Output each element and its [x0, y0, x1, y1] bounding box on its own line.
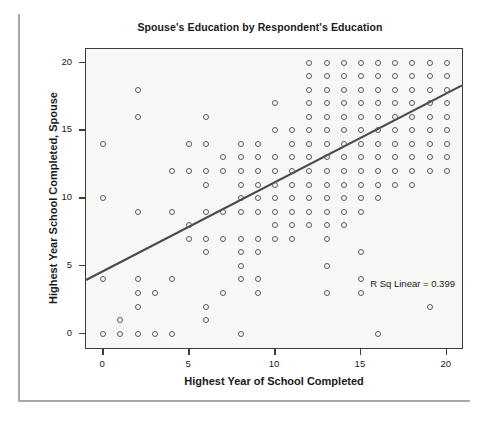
- scatter-point: [358, 87, 364, 93]
- scatter-point: [203, 168, 209, 174]
- scatter-point: [392, 127, 398, 133]
- scatter-point: [324, 114, 330, 120]
- scatter-point: [135, 87, 141, 93]
- scatter-point: [203, 304, 209, 310]
- scatter-point: [289, 209, 295, 215]
- scatter-point: [169, 168, 175, 174]
- scatter-point: [409, 141, 415, 147]
- scatter-point: [306, 154, 312, 160]
- scatter-point: [375, 168, 381, 174]
- scatter-point: [341, 195, 347, 201]
- scatter-point: [169, 331, 175, 337]
- scatter-point: [375, 60, 381, 66]
- scatter-point: [444, 141, 450, 147]
- y-axis-tick-label: 10: [46, 191, 72, 202]
- r-squared-annotation: R Sq Linear = 0.399: [370, 278, 455, 289]
- scatter-point: [427, 168, 433, 174]
- scatter-point: [392, 154, 398, 160]
- scatter-point: [238, 236, 244, 242]
- scatter-point: [324, 73, 330, 79]
- x-axis-tick-label: 0: [89, 358, 115, 369]
- scatter-point: [324, 263, 330, 269]
- scatter-point: [255, 195, 261, 201]
- scatter-point: [358, 195, 364, 201]
- scatter-point: [220, 290, 226, 296]
- scatter-point: [306, 114, 312, 120]
- scatter-point: [392, 168, 398, 174]
- scatter-point: [255, 249, 261, 255]
- scatter-point: [238, 209, 244, 215]
- scatter-point: [289, 195, 295, 201]
- scatter-point: [375, 73, 381, 79]
- scatter-point: [135, 209, 141, 215]
- scatter-point: [409, 168, 415, 174]
- scatter-point: [324, 87, 330, 93]
- page-bottom-rule: [18, 400, 470, 402]
- y-axis-tick-label: 5: [46, 259, 72, 270]
- scatter-point: [375, 195, 381, 201]
- scatter-point: [392, 100, 398, 106]
- scatter-point: [341, 168, 347, 174]
- y-axis-tick: [79, 333, 85, 335]
- scatter-point: [341, 209, 347, 215]
- x-axis-tick: [360, 349, 362, 355]
- scatter-point: [220, 209, 226, 215]
- scatter-point: [306, 222, 312, 228]
- scatter-point: [341, 100, 347, 106]
- scatter-point: [358, 127, 364, 133]
- scatter-point: [358, 114, 364, 120]
- scatter-point: [444, 87, 450, 93]
- scatter-point: [358, 276, 364, 282]
- y-axis-tick: [79, 129, 85, 131]
- y-axis-tick: [79, 62, 85, 64]
- scatter-point: [306, 182, 312, 188]
- scatter-point: [272, 182, 278, 188]
- scatter-point: [289, 141, 295, 147]
- y-axis-tick: [79, 197, 85, 199]
- scatter-point: [255, 182, 261, 188]
- scatter-point: [289, 182, 295, 188]
- scatter-points-layer: [86, 49, 462, 348]
- scatter-point: [409, 73, 415, 79]
- scatter-point: [255, 141, 261, 147]
- scatter-point: [375, 127, 381, 133]
- x-axis-tick-label: 15: [347, 358, 373, 369]
- scatter-point: [358, 154, 364, 160]
- scatter-point: [341, 182, 347, 188]
- scatter-point: [272, 222, 278, 228]
- scatter-point: [409, 87, 415, 93]
- scatter-point: [324, 127, 330, 133]
- scatter-point: [203, 141, 209, 147]
- scatter-point: [203, 182, 209, 188]
- scatter-point: [324, 222, 330, 228]
- scatter-point: [220, 154, 226, 160]
- scatter-point: [375, 141, 381, 147]
- scatter-point: [238, 276, 244, 282]
- scatter-point: [255, 168, 261, 174]
- scatter-point: [117, 331, 123, 337]
- scatter-point: [100, 276, 106, 282]
- scatter-point: [427, 73, 433, 79]
- scatter-point: [152, 331, 158, 337]
- scatter-point: [358, 168, 364, 174]
- scatter-point: [444, 168, 450, 174]
- y-axis-tick: [79, 265, 85, 267]
- scatter-point: [100, 141, 106, 147]
- scatter-point: [375, 114, 381, 120]
- scatter-point: [289, 168, 295, 174]
- scatter-point: [324, 236, 330, 242]
- scatter-point: [427, 87, 433, 93]
- page-left-rule: [18, 14, 20, 402]
- scatter-point: [358, 182, 364, 188]
- scatter-point: [409, 100, 415, 106]
- scatter-point: [203, 114, 209, 120]
- scatter-point: [427, 100, 433, 106]
- scatter-point: [324, 60, 330, 66]
- scatter-point: [238, 154, 244, 160]
- scatter-point: [444, 73, 450, 79]
- scatter-point: [238, 331, 244, 337]
- scatter-point: [135, 114, 141, 120]
- scatter-point: [220, 168, 226, 174]
- scatter-point: [255, 290, 261, 296]
- scatter-point: [427, 127, 433, 133]
